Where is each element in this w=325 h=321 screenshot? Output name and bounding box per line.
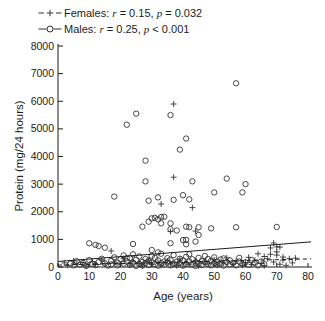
y-tick-label: 4000 <box>31 150 55 162</box>
legend-label-males: Males: r = 0.25, p < 0.001 <box>64 23 189 35</box>
males-data-point <box>155 195 160 200</box>
males-data-point <box>233 225 238 230</box>
y-tick-label: 6000 <box>31 95 55 107</box>
females-data-point <box>158 201 164 207</box>
males-data-point <box>187 197 192 202</box>
x-tick-label: 20 <box>115 270 127 282</box>
males-data-point <box>196 255 201 260</box>
y-tick-label: 3000 <box>31 178 55 190</box>
females-data-point <box>277 261 283 267</box>
x-tick-label: 0 <box>55 270 61 282</box>
males-data-point <box>108 262 113 267</box>
axis-lines <box>58 44 312 267</box>
legend-item-males: Males: r = 0.25, p < 0.001 <box>38 21 202 37</box>
males-data-point <box>174 228 179 233</box>
x-tick-label: 40 <box>177 270 189 282</box>
males-data-point <box>243 181 248 186</box>
males-data-point <box>212 190 217 195</box>
legend-females-r-value: = 0.15, <box>117 7 157 19</box>
males-data-point <box>93 242 98 247</box>
females-data-point <box>286 256 292 262</box>
females-data-point <box>268 245 274 251</box>
males-data-point <box>208 226 213 231</box>
legend-females-prefix: Females: <box>64 7 112 19</box>
males-data-point <box>158 221 163 226</box>
males-data-point <box>193 239 198 244</box>
y-tick-label: 1000 <box>31 233 55 245</box>
males-data-point <box>112 194 117 199</box>
females-data-point <box>255 251 261 257</box>
males-data-point <box>149 216 154 221</box>
females-data-point <box>277 244 283 250</box>
males-data-point <box>140 224 145 229</box>
x-tick-label: 60 <box>240 270 252 282</box>
males-data-point <box>177 147 182 152</box>
y-tick-label: 8000 <box>31 40 55 52</box>
females-data-point <box>280 257 286 263</box>
males-data-point <box>183 136 188 141</box>
legend-males-r-value: = 0.25, <box>104 23 144 35</box>
females-data-point <box>171 101 177 107</box>
y-axis-title: Protein (mg/24 hours) <box>13 91 25 221</box>
x-tick-label: 30 <box>146 270 158 282</box>
x-tick-label: 10 <box>83 270 95 282</box>
legend-label-females: Females: r = 0.15, p = 0.032 <box>64 7 202 19</box>
y-tick-label: 0 <box>48 261 54 273</box>
y-tick-label: 5000 <box>31 122 55 134</box>
males-data-point <box>168 112 173 117</box>
males-data-point <box>237 255 242 260</box>
females-plus-marker-icon <box>38 7 62 19</box>
males-data-point <box>190 179 195 184</box>
males-data-point <box>233 81 238 86</box>
x-tick-label: 50 <box>208 270 220 282</box>
males-data-point <box>202 253 207 258</box>
scatter-figure: Females: r = 0.15, p = 0.032 Males: r = … <box>0 0 325 321</box>
males-data-point <box>196 225 201 230</box>
females-data-point <box>293 255 299 261</box>
legend-item-females: Females: r = 0.15, p = 0.032 <box>38 5 202 21</box>
males-data-point <box>143 179 148 184</box>
males-data-point <box>274 224 279 229</box>
males-data-point <box>133 111 138 116</box>
plot-area: 0102030405060708001000200030004000500060… <box>0 0 325 321</box>
males-data-point <box>171 252 176 257</box>
males-data-point <box>96 243 101 248</box>
males-data-point <box>143 158 148 163</box>
males-data-point <box>196 232 201 237</box>
males-data-point <box>168 241 173 246</box>
females-data-point <box>189 205 195 211</box>
males-data-point <box>149 247 154 252</box>
females-data-point <box>193 228 199 234</box>
males-data-point <box>171 197 176 202</box>
y-tick-label: 2000 <box>31 205 55 217</box>
males-data-point <box>224 176 229 181</box>
males-data-point <box>180 192 185 197</box>
females-data-point <box>171 174 177 180</box>
males-data-point <box>240 190 245 195</box>
males-data-point <box>146 198 151 203</box>
males-data-point <box>87 241 92 246</box>
males-data-point <box>130 241 135 246</box>
legend-males-prefix: Males: <box>64 23 99 35</box>
females-data-point <box>108 248 114 254</box>
females-data-point <box>268 251 274 257</box>
males-data-point <box>168 221 173 226</box>
x-tick-label: 80 <box>302 270 314 282</box>
males-data-point <box>124 122 129 127</box>
males-data-point <box>187 225 192 230</box>
legend: Females: r = 0.15, p = 0.032 Males: r = … <box>38 5 202 37</box>
x-tick-label: 70 <box>271 270 283 282</box>
y-tick-label: 7000 <box>31 67 55 79</box>
males-circle-marker-icon <box>38 23 62 35</box>
males-data-point <box>146 219 151 224</box>
females-data-point <box>289 260 295 266</box>
legend-males-p-value: < 0.001 <box>149 23 189 35</box>
females-data-point <box>274 252 280 258</box>
x-axis-title: Age (years) <box>58 290 308 302</box>
males-data-point <box>102 245 107 250</box>
legend-females-p-value: = 0.032 <box>162 7 202 19</box>
